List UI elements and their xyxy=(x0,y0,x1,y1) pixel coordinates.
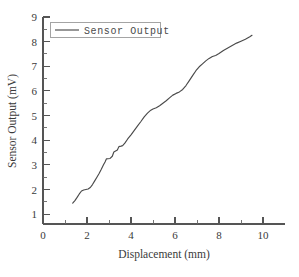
y-axis-title: Sensor Output (mV) xyxy=(6,74,19,168)
x-tick-label: 10 xyxy=(258,229,270,241)
y-tick-label: 4 xyxy=(32,134,38,146)
x-tick-label: 8 xyxy=(216,229,222,241)
y-tick-label: 3 xyxy=(32,159,38,171)
chart-figure: 0246810 123456789 Displacement (mm) Sens… xyxy=(0,0,299,277)
y-tick-label: 9 xyxy=(32,11,38,23)
x-axis-title: Displacement (mm) xyxy=(118,248,210,261)
x-tick-label: 0 xyxy=(40,229,46,241)
x-tick-label: 2 xyxy=(84,229,90,241)
x-tick-label: 6 xyxy=(172,229,178,241)
legend-label-sensor-output: Sensor Output xyxy=(84,26,170,37)
y-tick-label: 5 xyxy=(32,110,38,122)
y-tick-label: 7 xyxy=(32,60,38,72)
y-tick-label: 1 xyxy=(32,208,38,220)
y-tick-label: 6 xyxy=(32,85,38,97)
x-tick-label: 4 xyxy=(128,229,134,241)
y-tick-label: 2 xyxy=(32,184,38,196)
line-chart: 0246810 123456789 Displacement (mm) Sens… xyxy=(0,0,299,277)
y-tick-label: 8 xyxy=(32,36,38,48)
